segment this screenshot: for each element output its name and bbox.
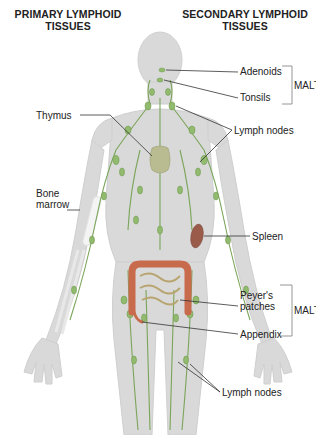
secondary-header-line-1: SECONDARY LYMPHOID <box>180 8 310 20</box>
label-bone-marrow-line-1: Bone <box>36 188 69 199</box>
label-tonsils: Tonsils <box>240 92 271 103</box>
label-malt-upper: MALT <box>294 80 316 91</box>
primary-lymphoid-header: PRIMARY LYMPHOID TISSUES <box>8 8 128 32</box>
tonsils <box>157 78 163 82</box>
label-spleen: Spleen <box>252 231 283 242</box>
label-lymph-nodes-upper: Lymph nodes <box>234 125 294 136</box>
label-peyers-line-1: Peyer's <box>240 290 275 301</box>
label-thymus: Thymus <box>36 110 72 121</box>
label-adenoids: Adenoids <box>240 66 282 77</box>
adenoids <box>159 68 165 72</box>
secondary-header-line-2: TISSUES <box>180 20 310 32</box>
primary-header-line-2: TISSUES <box>8 20 128 32</box>
label-appendix: Appendix <box>240 329 282 340</box>
label-bone-marrow: Bone marrow <box>36 188 69 210</box>
label-peyers-line-2: patches <box>240 301 275 312</box>
lymphoid-tissues-diagram: PRIMARY LYMPHOID TISSUES SECONDARY LYMPH… <box>0 0 316 435</box>
label-bone-marrow-line-2: marrow <box>36 199 69 210</box>
malt-brackets <box>280 66 292 336</box>
label-lymph-nodes-lower: Lymph nodes <box>222 387 282 398</box>
label-malt-lower: MALT <box>294 305 316 316</box>
label-peyers-patches: Peyer's patches <box>240 290 275 312</box>
secondary-lymphoid-header: SECONDARY LYMPHOID TISSUES <box>180 8 310 32</box>
thymus <box>150 146 170 173</box>
primary-header-line-1: PRIMARY LYMPHOID <box>8 8 128 20</box>
